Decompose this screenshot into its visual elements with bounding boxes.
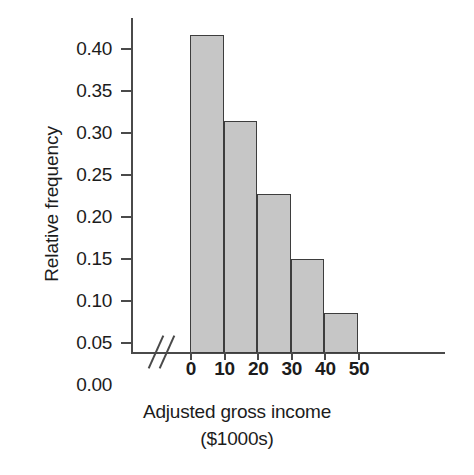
bar-20-30 xyxy=(257,194,291,353)
y-tick-label-035: 0.35 xyxy=(50,81,112,100)
y-tick-label-030: 0.30 xyxy=(50,123,112,142)
y-tick-label-000: 0.00 xyxy=(50,375,112,394)
bar-10-20 xyxy=(224,121,258,353)
bar-30-40 xyxy=(291,259,325,353)
bar-40-50 xyxy=(324,313,358,353)
y-tick-label-015: 0.15 xyxy=(50,249,112,268)
histogram-figure: Relative frequency 0.40 0.35 0.30 0.25 0… xyxy=(0,0,474,475)
y-tick-label-040: 0.40 xyxy=(50,39,112,58)
bars-group xyxy=(190,18,358,353)
y-axis-line xyxy=(131,18,133,354)
y-tick-label-020: 0.20 xyxy=(50,207,112,226)
x-tick-label-50: 50 xyxy=(339,358,379,380)
y-tick-label-025: 0.25 xyxy=(50,165,112,184)
y-tick-label-005: 0.05 xyxy=(50,333,112,352)
y-tick-label-010: 0.10 xyxy=(50,291,112,310)
x-axis-title: Adjusted gross income ($1000s) xyxy=(0,398,474,452)
bar-0-10 xyxy=(190,35,224,353)
x-axis-title-line2: ($1000s) xyxy=(0,425,474,452)
x-axis-title-line1: Adjusted gross income xyxy=(143,401,331,422)
